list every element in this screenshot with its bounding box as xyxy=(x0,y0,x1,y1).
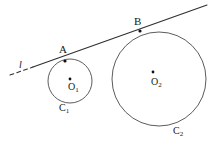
label-circle-c2: C2 xyxy=(173,126,183,136)
center-point-o2 xyxy=(152,71,155,74)
label-circle-c1-subscript: 1 xyxy=(66,107,70,115)
label-circle-c2-subscript: 2 xyxy=(180,130,184,138)
label-line-l: l xyxy=(19,60,22,70)
tangency-point-b xyxy=(138,29,141,32)
label-circle-c1: C1 xyxy=(59,103,69,113)
geometry-figure: A B O1 O2 C1 C2 l xyxy=(0,0,214,153)
tangency-point-a xyxy=(63,59,66,62)
label-center-o2-subscript: 2 xyxy=(158,81,162,89)
label-point-a: A xyxy=(59,44,67,55)
label-circle-c2-base: C xyxy=(173,125,180,136)
tangent-line-solid-segment xyxy=(33,5,207,67)
label-center-o1: O1 xyxy=(68,82,79,92)
label-point-b: B xyxy=(134,16,141,27)
label-circle-c1-base: C xyxy=(59,102,66,113)
label-center-o1-subscript: 1 xyxy=(75,86,79,94)
center-point-o1 xyxy=(69,78,72,81)
label-center-o2: O2 xyxy=(151,77,162,87)
